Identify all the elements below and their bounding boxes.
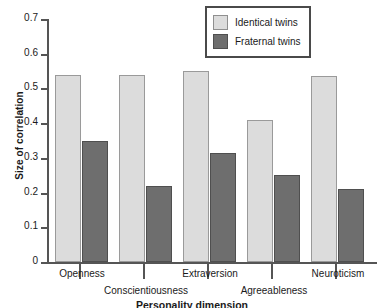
y-tick: 0 <box>41 262 48 264</box>
legend-label-identical-twins: Identical twins <box>235 17 298 28</box>
y-tick-label: 0.5 <box>24 81 38 92</box>
y-tick-label: 0.2 <box>24 186 38 197</box>
y-tick: 0.1 <box>41 227 48 229</box>
bar <box>55 75 81 262</box>
y-tick-label: 0.6 <box>24 47 38 58</box>
category-tick <box>271 264 273 279</box>
y-tick: 0.2 <box>41 193 48 195</box>
y-tick-label: 0 <box>32 255 38 266</box>
bar <box>146 186 172 262</box>
twin-correlation-bar-chart: Size of correlation 00.10.20.30.40.50.60… <box>0 0 384 308</box>
legend-item-fraternal-twins: Fraternal twins <box>213 32 301 51</box>
bar <box>338 189 364 262</box>
bar <box>183 71 209 262</box>
legend-label-fraternal-twins: Fraternal twins <box>235 36 301 47</box>
bar-group <box>119 19 172 262</box>
y-tick-label: 0.3 <box>24 151 38 162</box>
y-tick-label: 0.4 <box>24 116 38 127</box>
legend-item-identical-twins: Identical twins <box>213 13 301 32</box>
bar-group <box>311 19 364 262</box>
bar <box>119 75 145 262</box>
y-tick: 0.4 <box>41 123 48 125</box>
y-tick: 0.5 <box>41 88 48 90</box>
bar <box>247 120 273 262</box>
bar-group <box>55 19 108 262</box>
y-tick: 0.3 <box>41 158 48 160</box>
y-axis-title: Size of correlation <box>14 66 25 206</box>
chart-legend: Identical twins Fraternal twins <box>205 6 311 58</box>
category-label: Conscientiousness <box>104 285 188 296</box>
legend-swatch-identical-twins <box>213 15 228 30</box>
x-axis-title: Personality dimension <box>0 299 384 308</box>
y-tick-label: 0.1 <box>24 220 38 231</box>
category-label: Neuroticism <box>312 268 365 279</box>
bar <box>210 153 236 262</box>
y-tick-label: 0.7 <box>24 12 38 23</box>
category-label: Extraversion <box>182 268 238 279</box>
bar <box>311 76 337 262</box>
x-axis-line <box>47 262 377 264</box>
category-label: Openness <box>59 268 105 279</box>
bar <box>82 141 108 263</box>
y-tick: 0.7 <box>41 19 48 21</box>
category-tick <box>143 264 145 279</box>
category-label: Agreeableness <box>241 285 308 296</box>
bar <box>274 175 300 262</box>
legend-swatch-fraternal-twins <box>213 34 228 49</box>
y-tick: 0.6 <box>41 54 48 56</box>
